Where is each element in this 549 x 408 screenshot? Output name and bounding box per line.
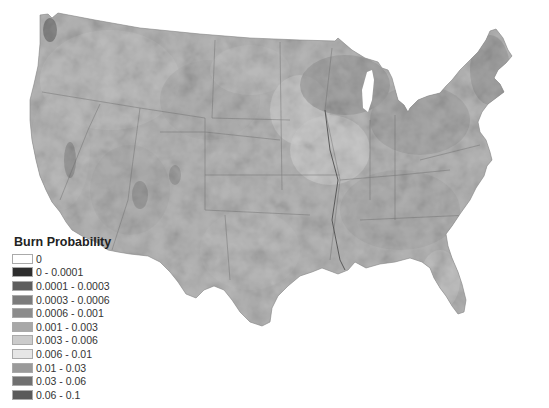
legend-swatch — [12, 267, 33, 277]
legend-label: 0.0006 - 0.001 — [36, 307, 104, 319]
legend-swatch — [12, 376, 33, 386]
legend-item: 0.006 - 0.01 — [12, 347, 142, 361]
legend-label: 0.003 - 0.006 — [36, 334, 98, 346]
legend-swatch — [12, 254, 33, 264]
legend-swatch — [12, 390, 33, 400]
legend-item: 0.01 - 0.03 — [12, 361, 142, 375]
legend-title: Burn Probability — [14, 235, 142, 249]
legend-label: 0.0001 - 0.0003 — [36, 280, 110, 292]
legend-label: 0.03 - 0.06 — [36, 375, 86, 387]
legend-label: 0.06 - 0.1 — [36, 389, 80, 401]
legend-item: 0.0001 - 0.0003 — [12, 279, 142, 293]
legend-label: 0.0003 - 0.0006 — [36, 294, 110, 306]
legend-label: 0.001 - 0.003 — [36, 321, 98, 333]
legend-label: 0.01 - 0.03 — [36, 362, 86, 374]
legend-swatch — [12, 322, 33, 332]
legend-item: 0 - 0.0001 — [12, 266, 142, 280]
legend-swatch — [12, 349, 33, 359]
legend-label: 0.006 - 0.01 — [36, 348, 92, 360]
legend-item: 0.003 - 0.006 — [12, 334, 142, 348]
legend-swatch — [12, 295, 33, 305]
legend-label: 0 - 0.0001 — [36, 266, 83, 278]
legend-item: 0.0003 - 0.0006 — [12, 293, 142, 307]
legend-label: 0 — [36, 253, 42, 265]
legend: Burn Probability 0 0 - 0.0001 0.0001 - 0… — [12, 235, 142, 402]
legend-item: 0.0006 - 0.001 — [12, 306, 142, 320]
legend-item: 0.03 - 0.06 — [12, 374, 142, 388]
legend-swatch — [12, 308, 33, 318]
legend-swatch — [12, 363, 33, 373]
legend-item: 0.001 - 0.003 — [12, 320, 142, 334]
legend-item: 0 — [12, 252, 142, 266]
legend-item: 0.06 - 0.1 — [12, 388, 142, 402]
legend-swatch — [12, 281, 33, 291]
legend-swatch — [12, 335, 33, 345]
